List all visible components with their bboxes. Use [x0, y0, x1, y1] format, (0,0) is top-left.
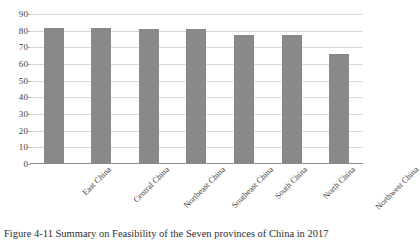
y-tick-label: 40: [2, 93, 28, 102]
bar-central-china[interactable]: [91, 28, 111, 164]
bar-northwest-china[interactable]: [329, 54, 349, 164]
x-label-southeast-china: Southeast China: [230, 165, 275, 210]
x-label-north-china: North China: [321, 165, 357, 201]
bar-slot: [315, 14, 363, 164]
bar-slot: [220, 14, 268, 164]
y-tick-label: 30: [2, 110, 28, 119]
bar-northeast-china[interactable]: [139, 29, 159, 165]
bar-slot: [268, 14, 316, 164]
bar-slot: [173, 14, 221, 164]
bar-east-china[interactable]: [44, 28, 64, 164]
figure-caption: Figure 4-11 Summary on Feasibility of th…: [4, 228, 376, 240]
x-label-northeast-china: Northeast China: [182, 165, 227, 210]
y-tick-label: 20: [2, 127, 28, 136]
y-tick-label: 50: [2, 77, 28, 86]
y-tick-label: 0: [2, 160, 28, 169]
bar-slot: [78, 14, 126, 164]
y-tick-label: 60: [2, 60, 28, 69]
bar-slot: [30, 14, 78, 164]
bar-southeast-china[interactable]: [186, 29, 206, 164]
y-tick-label: 10: [2, 143, 28, 152]
y-tick-label: 70: [2, 43, 28, 52]
x-label-central-china: Central China: [132, 165, 171, 204]
bar-series: [30, 14, 363, 164]
x-label-south-china: South China: [273, 165, 309, 201]
x-label-northwest-china: Northwest China: [374, 165, 420, 212]
y-tick-label: 80: [2, 27, 28, 36]
bar-slot: [125, 14, 173, 164]
x-label-east-china: East China: [81, 165, 113, 197]
y-axis: 90 80 70 60 50 40 30 20 10 0: [0, 14, 28, 164]
bar-south-china[interactable]: [234, 35, 254, 164]
x-axis-labels: East China Central China Northeast China…: [30, 165, 363, 223]
y-tick-label: 90: [2, 10, 28, 19]
bar-north-china[interactable]: [282, 35, 302, 164]
